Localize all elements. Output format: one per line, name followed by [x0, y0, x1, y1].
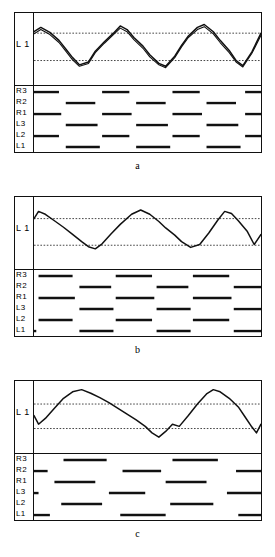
panel-c-raster-section: R3R2R1L3L2L1 [15, 454, 261, 520]
raster-row-label-L2: L2 [16, 315, 26, 323]
raster-row-label-R2: R2 [16, 282, 27, 290]
panel-a-caption: a [0, 160, 275, 171]
raster-row-label-R1: R1 [16, 477, 27, 485]
panel-c-trace-section: L 1 [15, 381, 261, 454]
raster-row-label-L1: L1 [16, 142, 26, 150]
panel-b-frame: L 1 R3R2R1L3L2L1 [14, 196, 262, 337]
raster-row-label-R1: R1 [16, 109, 27, 117]
panel-b-caption: b [0, 344, 275, 355]
raster-row-label-L2: L2 [16, 499, 26, 507]
waveform-trace-primary [34, 390, 261, 438]
panel-a-frame: L 1 R3R2R1L3L2L1 [14, 12, 262, 153]
raster-row-label-R2: R2 [16, 98, 27, 106]
panel-a-trace-section: L 1 [15, 13, 261, 86]
panel-c-plot-area [34, 381, 261, 453]
panel-a-trace-ylabel: L 1 [16, 39, 34, 49]
panel-a-raster-svg [34, 86, 261, 152]
raster-row-label-L3: L3 [16, 488, 26, 496]
panel-b-raster-area [34, 270, 261, 336]
panel-b-raster-svg [34, 270, 261, 336]
panel-b-raster-section: R3R2R1L3L2L1 [15, 270, 261, 336]
waveform-trace-primary [34, 25, 261, 67]
panel-c-caption: c [0, 528, 275, 539]
raster-row-label-L2: L2 [16, 131, 26, 139]
raster-row-label-R3: R3 [16, 271, 27, 279]
panel-b-raster-labels: R3R2R1L3L2L1 [15, 270, 34, 336]
panel-c-raster-labels: R3R2R1L3L2L1 [15, 454, 34, 520]
waveform-trace-primary [34, 210, 261, 249]
raster-row-label-L3: L3 [16, 304, 26, 312]
raster-row-label-L1: L1 [16, 326, 26, 334]
panel-b-trace-ylabel: L 1 [16, 223, 34, 233]
panel-b: L 1 R3R2R1L3L2L1 [14, 196, 262, 337]
panel-c: L 1 R3R2R1L3L2L1 [14, 380, 262, 521]
panel-a-raster-labels: R3R2R1L3L2L1 [15, 86, 34, 152]
raster-row-label-R1: R1 [16, 293, 27, 301]
panel-c-raster-area [34, 454, 261, 520]
panel-a-raster-section: R3R2R1L3L2L1 [15, 86, 261, 152]
raster-row-label-L1: L1 [16, 510, 26, 518]
panel-b-plot-area [34, 197, 261, 269]
raster-row-label-R3: R3 [16, 455, 27, 463]
panel-b-trace-section: L 1 [15, 197, 261, 270]
panel-a-plot-area [34, 13, 261, 85]
panel-c-waveform-svg [34, 381, 261, 453]
figure-root: L 1 R3R2R1L3L2L1 a L 1 [0, 0, 275, 557]
panel-a: L 1 R3R2R1L3L2L1 [14, 12, 262, 153]
panel-c-frame: L 1 R3R2R1L3L2L1 [14, 380, 262, 521]
panel-c-raster-svg [34, 454, 261, 520]
panel-c-trace-ylabel: L 1 [16, 407, 34, 417]
raster-row-label-R2: R2 [16, 466, 27, 474]
raster-row-label-R3: R3 [16, 87, 27, 95]
panel-a-waveform-svg [34, 13, 261, 85]
panel-b-waveform-svg [34, 197, 261, 269]
raster-row-label-L3: L3 [16, 120, 26, 128]
panel-a-raster-area [34, 86, 261, 152]
